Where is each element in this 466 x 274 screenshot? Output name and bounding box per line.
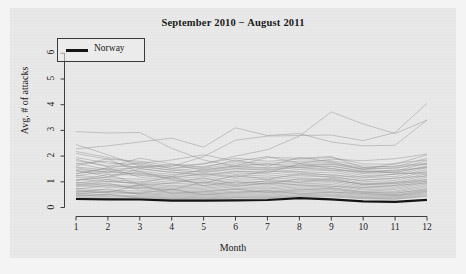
x-tick-label: 7 <box>257 222 277 232</box>
x-tick-label: 2 <box>98 222 118 232</box>
y-tick-label: 1 <box>46 174 56 188</box>
series-line <box>76 120 427 149</box>
x-tick-label: 5 <box>194 222 214 232</box>
legend-label-norway: Norway <box>94 43 125 53</box>
x-tick-label: 12 <box>417 222 437 232</box>
x-tick-label: 10 <box>353 222 373 232</box>
x-tick-label: 9 <box>321 222 341 232</box>
x-tick-label: 3 <box>130 222 150 232</box>
y-tick-label: 0 <box>46 200 56 214</box>
y-tick-label: 4 <box>46 97 56 111</box>
x-tick-label: 11 <box>385 222 405 232</box>
x-tick-label: 8 <box>289 222 309 232</box>
y-tick-label: 6 <box>46 45 56 59</box>
x-tick-label: 4 <box>162 222 182 232</box>
legend-line-norway <box>66 49 88 52</box>
x-tick-label: 6 <box>226 222 246 232</box>
x-tick-label: 1 <box>66 222 86 232</box>
series-line <box>76 103 427 166</box>
series-layer <box>76 103 427 199</box>
chart-page: September 2010 − August 2011 Avg. # of a… <box>0 0 466 274</box>
y-tick-label: 5 <box>46 71 56 85</box>
y-tick-label: 3 <box>46 122 56 136</box>
legend: Norway <box>57 38 145 62</box>
y-tick-label: 2 <box>46 148 56 162</box>
